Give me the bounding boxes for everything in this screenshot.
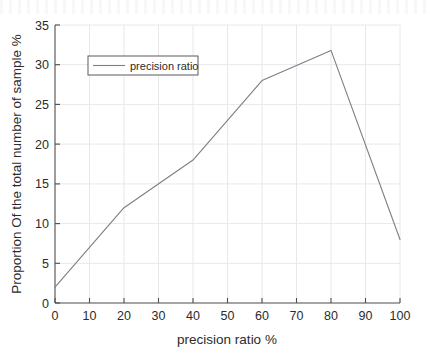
- x-tick-label: 10: [83, 309, 97, 323]
- legend-label-precision-ratio: precision ratio: [130, 60, 198, 72]
- x-tick-label: 30: [152, 309, 166, 323]
- x-tick-label: 80: [324, 309, 338, 323]
- y-tick-label: 0: [42, 297, 49, 311]
- y-tick-label: 25: [35, 98, 49, 112]
- x-tick-label: 50: [221, 309, 235, 323]
- x-tick-label: 0: [52, 309, 59, 323]
- x-tick-label: 70: [290, 309, 304, 323]
- y-tick-labels: 0 5 10 15 20 25 30 35: [35, 19, 49, 311]
- x-tick-label: 90: [359, 309, 373, 323]
- line-chart: 0 5 10 15 20 25 30 35 0 10 20 30 40 50 6…: [0, 0, 427, 361]
- x-tick-labels: 0 10 20 30 40 50 60 70 80 90 100: [52, 309, 411, 323]
- x-tick-label: 20: [117, 309, 131, 323]
- x-axis-title: precision ratio %: [177, 332, 277, 347]
- y-tick-label: 20: [35, 138, 49, 152]
- y-tick-label: 10: [35, 217, 49, 231]
- y-tick-label: 5: [42, 257, 49, 271]
- chart-figure: 0 5 10 15 20 25 30 35 0 10 20 30 40 50 6…: [0, 0, 427, 361]
- y-axis-title: Proportion Of the total number of sample…: [9, 34, 24, 294]
- x-tick-label: 40: [186, 309, 200, 323]
- x-tick-label: 60: [255, 309, 269, 323]
- y-tick-label: 15: [35, 177, 49, 191]
- y-tick-label: 35: [35, 19, 49, 33]
- x-tick-label: 100: [390, 309, 411, 323]
- y-tick-label: 30: [35, 58, 49, 72]
- chart-legend[interactable]: precision ratio: [88, 56, 198, 75]
